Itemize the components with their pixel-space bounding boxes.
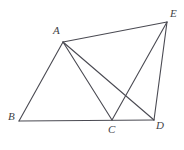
segment-C-E	[112, 22, 167, 120]
segment-B-D	[19, 120, 154, 121]
segment-A-C	[63, 42, 112, 120]
segment-D-E	[154, 22, 167, 120]
segment-A-D	[63, 42, 154, 120]
vertex-label-b: B	[8, 111, 15, 122]
segment-layer	[19, 22, 167, 121]
vertex-label-a: A	[53, 25, 60, 36]
geometry-figure: ABCDE	[0, 0, 184, 150]
vertex-label-e: E	[170, 8, 177, 19]
vertex-label-d: D	[156, 120, 164, 131]
segment-A-E	[63, 22, 167, 42]
segment-A-B	[19, 42, 63, 121]
vertex-label-c: C	[108, 124, 115, 135]
